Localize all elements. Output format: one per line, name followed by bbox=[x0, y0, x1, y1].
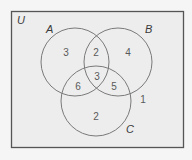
venn-svg: U ABC 32436521 bbox=[0, 0, 192, 160]
universe-label: U bbox=[17, 14, 25, 26]
venn-diagram: U ABC 32436521 bbox=[0, 0, 192, 160]
region-value-A-and-B-and-C: 3 bbox=[94, 71, 100, 82]
region-value-A-and-B-only: 2 bbox=[93, 47, 99, 58]
set-label-b: B bbox=[145, 23, 152, 35]
region-value-A-only: 3 bbox=[63, 47, 69, 58]
region-value-A-and-C-only: 6 bbox=[75, 81, 81, 92]
region-value-outside-all: 1 bbox=[140, 94, 146, 105]
region-value-B-only: 4 bbox=[125, 47, 131, 58]
region-value-C-only: 2 bbox=[93, 111, 99, 122]
set-label-c: C bbox=[126, 123, 134, 135]
region-value-B-and-C-only: 5 bbox=[111, 81, 117, 92]
set-label-a: A bbox=[45, 23, 53, 35]
